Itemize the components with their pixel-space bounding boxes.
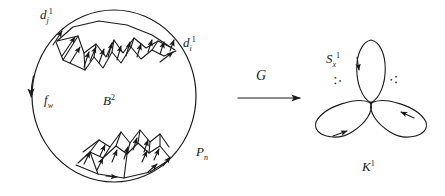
upper-jagged-complex (53, 21, 176, 70)
figure-root: dj1 di1 fw B2 Pn G Sx1 K1 ∴ ∴ (0, 0, 445, 196)
rose-petal-lower-right (371, 101, 427, 137)
label-g-map: G (256, 69, 266, 83)
lower-jagged-complex (76, 130, 170, 178)
label-b-2-base: B (103, 93, 111, 108)
label-s-sub: x (333, 60, 337, 69)
label-d-i-1: di1 (183, 36, 196, 53)
label-k-1: K1 (362, 160, 375, 173)
rose-wedge-point (370, 102, 373, 105)
label-f-w-sub: w (48, 101, 53, 110)
label-k-sup: 1 (371, 159, 375, 168)
label-d-j-sub: j (47, 16, 49, 25)
label-d-i-sub: i (190, 44, 192, 53)
label-f-w: fw (44, 93, 53, 110)
label-p-n-sub: n (204, 153, 208, 162)
label-d-i-sup: 1 (192, 35, 196, 44)
rose-petal-top (357, 40, 386, 103)
label-d-j-sup: 1 (49, 7, 53, 16)
topology-diagram (0, 0, 445, 196)
label-p-n-base: P (196, 144, 204, 159)
label-b-2-sup: 2 (111, 93, 115, 102)
label-d-j-1: dj1 (40, 8, 53, 25)
label-p-n: Pn (196, 145, 208, 162)
rose-arrow-lower-right (401, 112, 414, 118)
label-k-base: K (362, 159, 371, 174)
label-b-2: B2 (103, 94, 115, 107)
label-s-sup: 1 (336, 51, 340, 60)
label-s-1-x: Sx1 (326, 52, 340, 69)
rose-petal-lower-left (316, 101, 372, 137)
